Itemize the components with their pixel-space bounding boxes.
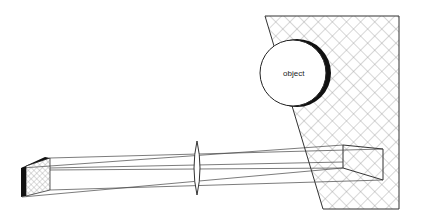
- image-plane: [21, 157, 50, 197]
- lens: [194, 141, 200, 195]
- optics-diagram: object: [0, 0, 421, 220]
- object-label: object: [283, 69, 305, 78]
- object-sphere: object: [260, 39, 331, 107]
